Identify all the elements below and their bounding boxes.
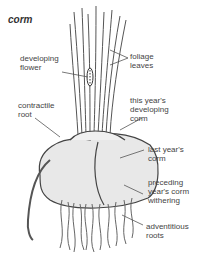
label-contractile-root: contractile root	[18, 101, 54, 119]
label-foliage-leaves: foliage leaves	[130, 52, 154, 70]
label-last-years-corm: last year's corm	[148, 145, 184, 163]
label-adventitious-roots: adventitious roots	[146, 222, 189, 240]
corm-illustration	[0, 0, 200, 257]
label-preceding-corm: preceding year's corm withering	[148, 178, 189, 205]
corm-body-drawing	[39, 131, 158, 208]
diagram-title: corm	[8, 14, 32, 25]
foliage-leaves-drawing	[70, 6, 126, 135]
label-developing-flower: developing flower	[20, 54, 59, 72]
label-this-years-corm: this year's developing corm	[130, 96, 169, 123]
